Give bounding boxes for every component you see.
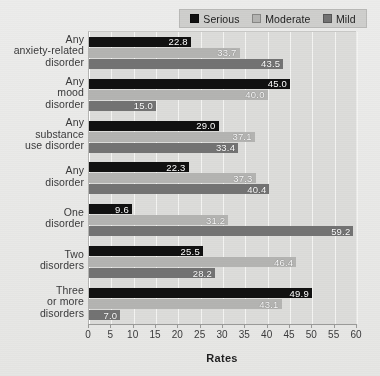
category-label-line: disorder — [0, 57, 84, 69]
bar-mild: 28.2 — [89, 268, 215, 278]
category-axis-labels: Anyanxiety-relateddisorderAnymooddisorde… — [0, 31, 84, 324]
category-label: Threeor moredisorders — [0, 285, 84, 320]
x-tick-label-40: 40 — [261, 329, 272, 340]
legend-label-serious: Serious — [203, 13, 239, 25]
bar-moderate: 37.3 — [89, 173, 256, 183]
bar-moderate: 37.1 — [89, 132, 255, 142]
x-tick-label-20: 20 — [172, 329, 183, 340]
bar-group: 29.037.133.4 — [89, 116, 356, 158]
legend-label-moderate: Moderate — [265, 13, 310, 25]
category-label: Anymooddisorder — [0, 76, 84, 111]
x-tick-label-10: 10 — [127, 329, 138, 340]
bar-value-label: 40.0 — [245, 89, 267, 100]
bar-mild: 59.2 — [89, 226, 353, 236]
bar-value-label: 22.8 — [169, 36, 191, 47]
chart-legend: Serious Moderate Mild — [179, 9, 367, 28]
bar-moderate: 40.0 — [89, 90, 268, 100]
category-label: Anydisorder — [0, 165, 84, 188]
legend-swatch-serious — [190, 14, 199, 23]
bar-value-label: 49.9 — [290, 288, 312, 299]
bar-serious: 29.0 — [89, 121, 219, 131]
x-tick-20 — [177, 324, 178, 328]
x-tick-label-5: 5 — [108, 329, 114, 340]
plot-area: 22.833.743.545.040.015.029.037.133.422.3… — [88, 31, 356, 324]
x-tick-label-35: 35 — [239, 329, 250, 340]
bar-chart: Serious Moderate Mild Anyanxiety-related… — [0, 0, 380, 376]
category-label: Anysubstanceuse disorder — [0, 117, 84, 152]
x-tick-label-45: 45 — [283, 329, 294, 340]
legend-item-moderate: Moderate — [252, 13, 310, 25]
x-axis: 051015202530354045505560 — [88, 324, 356, 344]
bar-group: 9.631.259.2 — [89, 199, 356, 241]
bar-value-label: 46.4 — [274, 257, 296, 268]
category-label-line: anxiety-related — [0, 45, 84, 57]
bar-group: 22.833.743.5 — [89, 32, 356, 74]
bar-moderate: 46.4 — [89, 257, 296, 267]
category-label: Twodisorders — [0, 249, 84, 272]
bar-value-label: 45.0 — [268, 78, 290, 89]
category-label-line: use disorder — [0, 140, 84, 152]
bar-value-label: 22.3 — [166, 162, 188, 173]
x-tick-label-30: 30 — [216, 329, 227, 340]
x-tick-5 — [110, 324, 111, 328]
bar-mild: 15.0 — [89, 101, 156, 111]
x-tick-45 — [289, 324, 290, 328]
x-tick-0 — [88, 324, 89, 328]
bar-value-label: 29.0 — [196, 120, 218, 131]
bar-mild: 33.4 — [89, 143, 238, 153]
bar-serious: 9.6 — [89, 204, 132, 214]
x-tick-10 — [133, 324, 134, 328]
legend-item-mild: Mild — [323, 13, 356, 25]
x-tick-30 — [222, 324, 223, 328]
legend-swatch-moderate — [252, 14, 261, 23]
x-tick-55 — [334, 324, 335, 328]
bar-serious: 25.5 — [89, 246, 203, 256]
bar-serious: 45.0 — [89, 79, 290, 89]
x-tick-40 — [267, 324, 268, 328]
bar-value-label: 59.2 — [331, 226, 353, 237]
legend-swatch-mild — [323, 14, 332, 23]
x-tick-label-55: 55 — [328, 329, 339, 340]
bar-moderate: 43.1 — [89, 299, 282, 309]
x-tick-label-60: 60 — [350, 329, 361, 340]
category-label-line: disorder — [0, 218, 84, 230]
bar-groups: 22.833.743.545.040.015.029.037.133.422.3… — [89, 32, 356, 324]
bar-value-label: 9.6 — [115, 204, 132, 215]
bar-serious: 49.9 — [89, 288, 312, 298]
bar-group: 22.337.340.4 — [89, 158, 356, 200]
category-label: Anyanxiety-relateddisorder — [0, 34, 84, 69]
bar-value-label: 31.2 — [206, 215, 228, 226]
legend-item-serious: Serious — [190, 13, 239, 25]
category-label-line: mood — [0, 87, 84, 99]
x-tick-label-50: 50 — [306, 329, 317, 340]
bar-value-label: 43.5 — [261, 58, 283, 69]
bar-value-label: 37.1 — [232, 131, 254, 142]
bar-group: 25.546.428.2 — [89, 241, 356, 283]
bar-mild: 40.4 — [89, 184, 269, 194]
bar-value-label: 33.4 — [216, 142, 238, 153]
bar-value-label: 25.5 — [181, 246, 203, 257]
category-label-line: Any — [0, 165, 84, 177]
category-label-line: disorder — [0, 177, 84, 189]
bar-value-label: 15.0 — [134, 100, 156, 111]
x-tick-label-15: 15 — [149, 329, 160, 340]
x-tick-50 — [311, 324, 312, 328]
bar-serious: 22.3 — [89, 162, 189, 172]
bar-moderate: 31.2 — [89, 215, 228, 225]
category-label-line: disorder — [0, 99, 84, 111]
bar-value-label: 37.3 — [233, 173, 255, 184]
x-tick-60 — [356, 324, 357, 328]
bar-value-label: 28.2 — [193, 268, 215, 279]
bar-value-label: 40.4 — [247, 184, 269, 195]
category-label: Onedisorder — [0, 207, 84, 230]
bar-value-label: 33.7 — [217, 47, 239, 58]
bar-mild: 7.0 — [89, 310, 120, 320]
x-tick-25 — [200, 324, 201, 328]
category-label-line: disorders — [0, 308, 84, 320]
bar-serious: 22.8 — [89, 37, 191, 47]
category-label-line: disorders — [0, 260, 84, 272]
gridline-60 — [357, 32, 358, 324]
bar-group: 45.040.015.0 — [89, 74, 356, 116]
x-tick-35 — [244, 324, 245, 328]
x-axis-title: Rates — [88, 352, 356, 364]
